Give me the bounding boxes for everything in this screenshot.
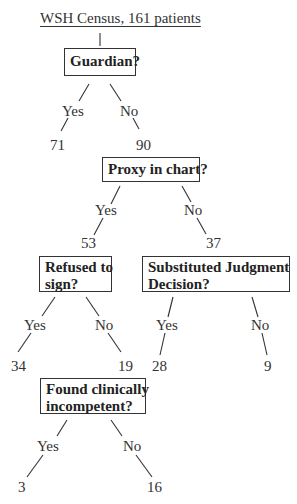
diagram-title: WSH Census, 161 patients bbox=[40, 11, 201, 26]
refused-yes-label: Yes bbox=[24, 318, 46, 333]
substituted-question-line1: Substituted Judgment bbox=[148, 259, 284, 276]
proxy-no-label: No bbox=[184, 203, 202, 218]
refused-question-line2: sign? bbox=[45, 276, 106, 293]
incompetent-no-count: 16 bbox=[147, 480, 162, 495]
refused-yes-count: 34 bbox=[11, 359, 26, 374]
proxy-yes-count: 53 bbox=[81, 236, 96, 251]
proxy-yes-label: Yes bbox=[95, 203, 117, 218]
refused-no-label: No bbox=[95, 318, 113, 333]
substituted-yes-label: Yes bbox=[156, 318, 178, 333]
incompetent-question-line2: incompetent? bbox=[46, 398, 140, 415]
guardian-yes-label: Yes bbox=[62, 104, 84, 119]
connector-lines bbox=[0, 0, 297, 504]
guardian-no-label: No bbox=[120, 104, 138, 119]
guardian-question: Guardian? bbox=[70, 53, 140, 69]
substituted-no-label: No bbox=[251, 318, 269, 333]
incompetent-no-label: No bbox=[123, 439, 141, 454]
proxy-no-count: 37 bbox=[206, 236, 221, 251]
incompetent-question-box: Found clinically incompetent? bbox=[40, 378, 146, 414]
substituted-question-line2: Decision? bbox=[148, 276, 284, 293]
guardian-yes-count: 71 bbox=[50, 138, 65, 153]
incompetent-question-line1: Found clinically bbox=[46, 381, 140, 398]
incompetent-yes-count: 3 bbox=[18, 480, 26, 495]
incompetent-yes-label: Yes bbox=[37, 439, 59, 454]
refused-question-box: Refused to sign? bbox=[39, 256, 112, 292]
substituted-yes-count: 28 bbox=[152, 359, 167, 374]
guardian-no-count: 90 bbox=[136, 138, 151, 153]
substituted-question-box: Substituted Judgment Decision? bbox=[142, 256, 290, 292]
refused-question-line1: Refused to bbox=[45, 259, 106, 276]
guardian-question-box: Guardian? bbox=[64, 48, 136, 76]
proxy-question: Proxy in chart? bbox=[108, 161, 208, 177]
proxy-question-box: Proxy in chart? bbox=[102, 157, 200, 182]
refused-no-count: 19 bbox=[118, 359, 133, 374]
substituted-no-count: 9 bbox=[264, 359, 272, 374]
